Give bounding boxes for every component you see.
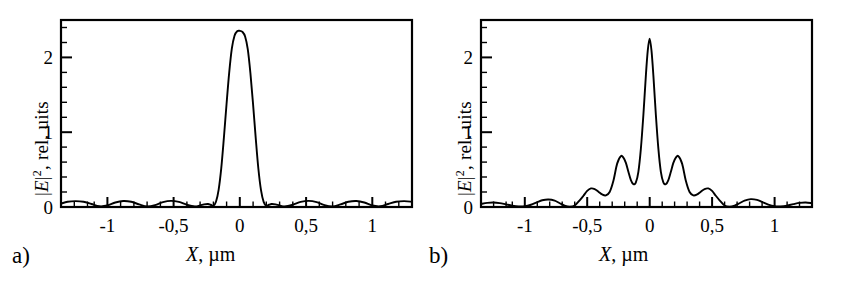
panel-b-xtick-1: 1 <box>770 215 780 236</box>
panel-b-ytick-0: 0 <box>464 197 474 218</box>
panel-a-ytick-0: 0 <box>44 197 54 218</box>
panel-a-xtick-minus0p5: -0,5 <box>159 215 189 236</box>
panel-a-x-axis-units: , µm <box>198 243 235 265</box>
panel-a-xtick-0: 0 <box>235 215 245 236</box>
panel-b-xtick-minus1: -1 <box>517 215 533 236</box>
panel-b-xtick-0p5: 0,5 <box>700 215 724 236</box>
panel-a-xtick-1: 1 <box>368 215 378 236</box>
panel-b-xtick-minus0p5: -0,5 <box>572 215 602 236</box>
panel-b-ytick-2: 2 <box>464 47 474 68</box>
panel-a-x-axis-symbol: X <box>186 243 198 265</box>
panel-b-x-axis-label: X, µm <box>599 243 648 266</box>
panel-a-plot-frame <box>61 20 412 207</box>
panel-a-xtick-minus1: -1 <box>99 215 115 236</box>
panel-b: |E|2, rel. uits <box>423 0 845 291</box>
panel-b-y-major-ticks <box>481 57 492 207</box>
panel-b-x-axis-symbol: X <box>599 243 611 265</box>
panel-b-plot-frame <box>481 20 812 207</box>
panel-a-data-curve <box>61 31 412 207</box>
panel-a-ytick-1: 1 <box>44 122 54 143</box>
panel-a-xtick-0p5: 0,5 <box>294 215 318 236</box>
panel-a-ytick-2: 2 <box>44 47 54 68</box>
panel-b-xtick-0: 0 <box>645 215 655 236</box>
panel-b-data-curve <box>481 39 812 207</box>
panel-a: |E|2, rel. uits <box>0 0 422 291</box>
panel-b-tag: b) <box>429 243 448 269</box>
panel-a-tag: a) <box>12 243 30 269</box>
panel-b-x-axis-units: , µm <box>611 243 648 265</box>
panel-a-y-major-ticks <box>61 57 72 207</box>
panel-b-ytick-1: 1 <box>464 122 474 143</box>
figure-container: |E|2, rel. uits <box>0 0 845 291</box>
panel-a-x-axis-label: X, µm <box>186 243 235 266</box>
